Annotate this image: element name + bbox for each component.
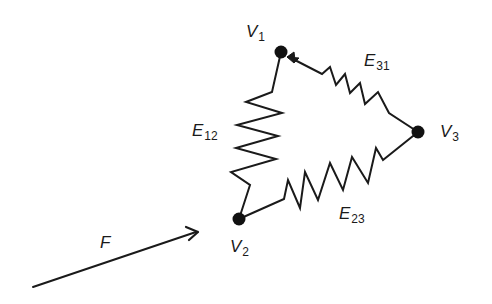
- spring-e12: [231, 52, 282, 219]
- label-e12: E12: [192, 122, 218, 142]
- spring-e31: [289, 57, 418, 132]
- label-v1: V1: [246, 23, 265, 43]
- spring-e23: [239, 132, 418, 219]
- label-e31: E31: [364, 52, 390, 72]
- label-e23: E23: [339, 205, 365, 225]
- label-v2: V2: [230, 238, 249, 258]
- node-v2: [233, 213, 246, 226]
- node-v1: [275, 46, 288, 59]
- node-v3: [412, 126, 425, 139]
- label-force: F: [100, 234, 110, 251]
- label-v3: V3: [440, 123, 459, 143]
- force-arrow-shaft: [33, 232, 196, 287]
